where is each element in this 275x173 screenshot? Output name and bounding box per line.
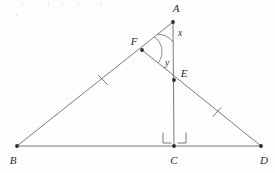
point-D — [259, 144, 263, 148]
geometry-figure: A F E B C D x y — [0, 0, 275, 173]
point-A — [171, 20, 175, 24]
point-C — [172, 144, 176, 148]
point-E — [172, 78, 176, 82]
point-F — [140, 48, 144, 52]
tick-on-ED — [213, 108, 221, 116]
angle-arc-y — [154, 37, 162, 63]
segment-AB — [17, 22, 173, 146]
right-angle-ACD — [178, 133, 186, 143]
vertex-label-C: C — [170, 155, 177, 166]
vertex-label-A: A — [173, 3, 180, 14]
vertex-label-D: D — [260, 155, 268, 166]
segment-FD — [142, 50, 261, 146]
angle-arc-x — [158, 34, 174, 42]
point-B — [15, 144, 19, 148]
vertex-label-E: E — [181, 68, 188, 79]
angle-label-y: y — [165, 59, 169, 69]
vertex-label-B: B — [10, 155, 17, 166]
angle-label-x: x — [178, 29, 182, 39]
vertex-label-F: F — [131, 36, 138, 47]
segment-AC — [173, 22, 174, 146]
geometry-canvas — [0, 0, 275, 173]
right-angle-BCA — [163, 133, 171, 143]
